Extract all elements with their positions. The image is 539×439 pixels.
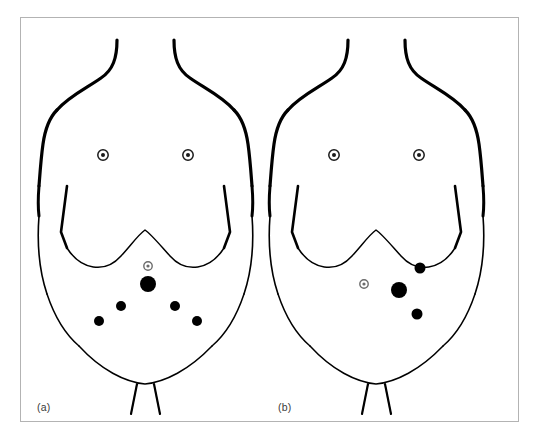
nipple-left-center	[101, 153, 105, 157]
nipple-right-center	[417, 153, 421, 157]
umbilicus-icon	[144, 262, 152, 270]
nipple-left-icon	[329, 150, 339, 160]
groin-right-line	[154, 384, 160, 414]
umbilicus-icon	[360, 280, 368, 288]
nipple-left-center	[332, 153, 336, 157]
panel-b: (b)	[252, 18, 501, 421]
figure-root: (a)	[0, 0, 539, 439]
nipple-left-icon	[98, 150, 108, 160]
shoulder-right-line	[465, 110, 483, 186]
neck-right-line	[174, 40, 234, 110]
port-site-marker[interactable]	[412, 309, 423, 320]
port-site-marker[interactable]	[170, 301, 180, 311]
port-site-marker[interactable]	[94, 316, 104, 326]
costal-right-line	[455, 186, 461, 248]
figure-frame: (a)	[20, 17, 519, 422]
costal-arch-line	[67, 230, 224, 267]
neck-left-line	[288, 40, 348, 110]
waist-right-line	[475, 216, 484, 294]
costal-right-line	[224, 186, 230, 248]
hip-left-line	[47, 294, 79, 346]
waist-left-line	[38, 216, 47, 294]
flank-left-line	[269, 186, 270, 216]
pelvic-curve-line	[79, 346, 212, 384]
umbilicus-center	[362, 282, 365, 285]
panel-label-a: (a)	[37, 401, 50, 413]
nipple-right-icon	[414, 150, 424, 160]
port-site-marker[interactable]	[116, 301, 126, 311]
nipple-right-icon	[183, 150, 193, 160]
panel-label-b: (b)	[278, 401, 291, 413]
hip-left-line	[278, 294, 310, 346]
shoulder-left-line	[270, 110, 288, 186]
flank-left-line	[38, 186, 39, 216]
torso-outline-a	[38, 40, 253, 414]
flank-right-line	[483, 186, 484, 216]
port-site-group-a	[94, 276, 202, 326]
hip-right-line	[443, 294, 475, 346]
costal-left-line	[61, 186, 67, 248]
costal-left-line	[292, 186, 298, 248]
port-site-marker[interactable]	[391, 282, 407, 298]
panel-a: (a)	[21, 18, 270, 421]
port-site-marker[interactable]	[415, 263, 426, 274]
neck-left-line	[57, 40, 117, 110]
pelvic-curve-line	[310, 346, 443, 384]
port-site-marker[interactable]	[140, 276, 156, 292]
torso-diagram-b	[252, 18, 501, 421]
groin-left-line	[131, 384, 137, 414]
port-site-marker[interactable]	[192, 316, 202, 326]
torso-outline-b	[269, 40, 484, 414]
groin-left-line	[362, 384, 368, 414]
shoulder-left-line	[39, 110, 57, 186]
nipple-right-center	[186, 153, 190, 157]
waist-left-line	[269, 216, 278, 294]
torso-diagram-a	[21, 18, 270, 421]
port-site-group-b	[391, 263, 426, 320]
costal-arch-line	[298, 230, 455, 267]
neck-right-line	[405, 40, 465, 110]
hip-right-line	[212, 294, 244, 346]
umbilicus-center	[146, 264, 149, 267]
groin-right-line	[385, 384, 391, 414]
shoulder-right-line	[234, 110, 252, 186]
